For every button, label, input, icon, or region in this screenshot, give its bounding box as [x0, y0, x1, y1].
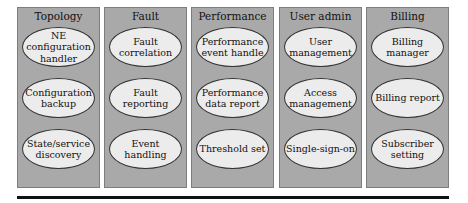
function-oval: Subscriber setting — [371, 129, 444, 169]
function-oval: Threshold set — [196, 129, 269, 169]
function-oval: Fault reporting — [109, 78, 182, 118]
column-title: User admin — [280, 10, 361, 22]
column-title: Performance — [192, 10, 273, 22]
function-oval: Event handling — [109, 129, 182, 169]
function-oval: Access management — [284, 78, 357, 118]
function-oval: User management — [284, 27, 357, 67]
function-oval: NE configuration handler — [22, 27, 95, 67]
function-oval: Fault correlation — [109, 27, 182, 67]
column-title: Fault — [105, 10, 186, 22]
function-oval: State/service discovery — [22, 129, 95, 169]
column-title: Billing — [367, 10, 448, 22]
column-title: Topology — [18, 10, 99, 22]
function-oval: Billing report — [371, 78, 444, 118]
function-oval: Performance event handle — [196, 27, 269, 67]
function-oval: Performance data report — [196, 78, 269, 118]
column-user-admin: User admin User management Access manage… — [279, 7, 362, 188]
function-oval: Configuration backup — [22, 78, 95, 118]
column-fault: Fault Fault correlation Fault reporting … — [104, 7, 187, 188]
function-oval: Single-sign-on — [284, 129, 357, 169]
column-topology: Topology NE configuration handler Config… — [17, 7, 100, 188]
column-billing: Billing Billing manager Billing report S… — [366, 7, 449, 188]
function-oval: Billing manager — [371, 27, 444, 67]
bottom-rule — [17, 196, 449, 199]
column-performance: Performance Performance event handle Per… — [191, 7, 274, 188]
